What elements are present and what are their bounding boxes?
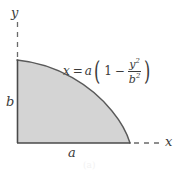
figure-caption-ghost: (a) <box>83 160 95 170</box>
equation-open-paren: ( <box>94 61 100 81</box>
equation-fraction: y2 b2 <box>128 58 141 84</box>
height-dimension-label: b <box>6 95 14 108</box>
equation-equals-sign: = <box>73 65 83 77</box>
denominator-base: b <box>129 72 136 85</box>
curve-equation-label: x = a ( 1 − y2 b2 ) <box>63 58 152 84</box>
x-axis-label: x <box>165 135 172 148</box>
equation-close-paren: ) <box>144 61 150 81</box>
figure-container: y x b a x = a ( 1 − y2 b2 ) (a) <box>0 0 187 173</box>
equation-minus-sign: − <box>115 65 125 77</box>
equation-lhs: x <box>63 65 70 77</box>
width-dimension-label: a <box>68 146 76 159</box>
y-axis-label: y <box>11 6 18 19</box>
equation-numerator: y2 <box>128 58 141 71</box>
denominator-exponent: 2 <box>136 72 140 80</box>
numerator-exponent: 2 <box>135 57 139 65</box>
equation-one: 1 <box>104 65 112 77</box>
equation-denominator: b2 <box>128 72 141 85</box>
diagram-canvas <box>0 0 187 173</box>
equation-coefficient: a <box>85 65 92 77</box>
